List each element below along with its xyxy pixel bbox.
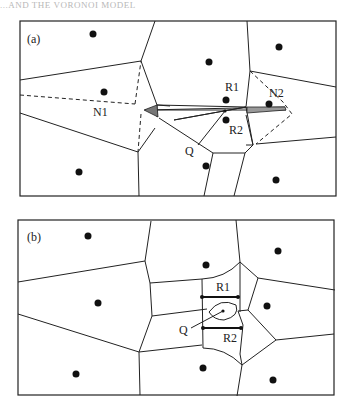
label-r1: R1 xyxy=(216,280,230,294)
site-point-r1 xyxy=(223,97,230,104)
voronoi-diagram-figure: (a) xyxy=(0,0,355,410)
shaded-wedge-right xyxy=(247,107,286,113)
panel-b-label: (b) xyxy=(27,230,41,244)
label-r1: R1 xyxy=(225,80,239,94)
site-point xyxy=(206,59,213,66)
panel-b-frame xyxy=(18,220,334,395)
site-point-n2 xyxy=(266,101,273,108)
site-point xyxy=(95,300,102,307)
label-r2: R2 xyxy=(229,123,243,137)
label-q: Q xyxy=(179,323,188,337)
panel-a-frame xyxy=(20,21,336,196)
panel-a: (a) xyxy=(20,21,336,196)
site-point xyxy=(203,262,210,269)
panel-b: (b) xyxy=(18,220,335,396)
site-point xyxy=(203,163,210,170)
site-point xyxy=(200,365,207,372)
label-n2: N2 xyxy=(269,86,284,100)
site-point xyxy=(276,44,283,51)
site-point xyxy=(73,371,80,378)
site-point xyxy=(273,177,280,184)
label-q: Q xyxy=(185,144,194,158)
shaded-wedge-left xyxy=(144,105,158,117)
panel-a-label: (a) xyxy=(27,32,40,46)
site-point xyxy=(85,233,92,240)
site-point xyxy=(275,248,282,255)
site-point xyxy=(90,31,97,38)
site-point xyxy=(270,377,277,384)
label-r2: R2 xyxy=(223,331,237,345)
site-point xyxy=(264,303,271,310)
site-point xyxy=(76,169,83,176)
site-point-n1 xyxy=(101,89,108,96)
label-n1: N1 xyxy=(93,105,108,119)
